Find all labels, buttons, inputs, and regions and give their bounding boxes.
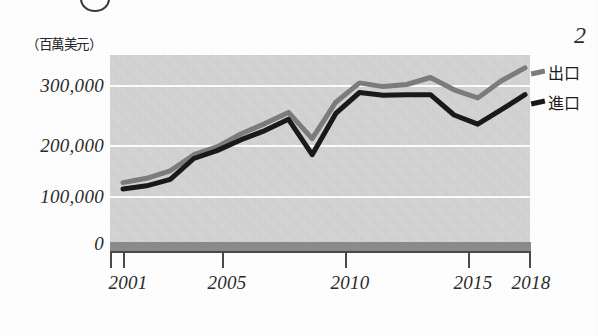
x-tick-mark [222, 251, 224, 268]
x-tick-mark [345, 251, 347, 268]
x-tick-label: 2010 [330, 272, 369, 294]
x-axis-right-cap [529, 251, 531, 268]
corner-page-number: 2 [574, 22, 587, 49]
x-axis-left-cap [110, 251, 112, 268]
legend-label-export: 出口 [548, 60, 579, 84]
x-tick-label: 2018 [511, 272, 550, 294]
x-tick-label: 2015 [453, 272, 492, 294]
y-tick-label: 0 [4, 233, 104, 255]
y-tick-label: 100,000 [4, 186, 104, 208]
x-tick-mark [123, 251, 125, 268]
x-tick-label: 2001 [108, 272, 147, 294]
chart-legend: 出口 進口 [531, 57, 579, 117]
line-swatch-export-icon [531, 68, 546, 76]
y-tick-label: 300,000 [4, 75, 104, 97]
series-lines [110, 55, 530, 248]
legend-label-import: 進口 [548, 90, 579, 114]
legend-item-export: 出口 [531, 57, 579, 87]
x-tick-mark [468, 251, 470, 268]
y-axis-ticks: 300,000 200,000 100,000 0 [0, 0, 104, 336]
legend-item-import: 進口 [531, 87, 579, 117]
x-tick-label: 2005 [207, 272, 246, 294]
y-tick-label: 200,000 [4, 135, 104, 157]
line-import [123, 93, 525, 190]
line-swatch-import-icon [531, 98, 546, 106]
